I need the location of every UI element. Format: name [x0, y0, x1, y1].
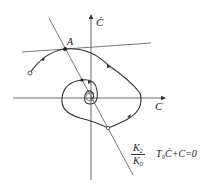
- fraction-denominator: K₀: [131, 156, 145, 166]
- trajectory-curve: [30, 49, 141, 128]
- horizontal-switching-line: [22, 43, 151, 52]
- diagram-canvas: [0, 0, 200, 190]
- point-A-label: A: [67, 37, 73, 47]
- switch-point-top: [80, 78, 83, 81]
- y-axis-label: Ċ: [96, 17, 103, 28]
- gain-ratio-fraction: K₂ K₀: [131, 143, 145, 166]
- switch-point-bottom: [106, 126, 110, 130]
- point-A: [63, 47, 67, 51]
- switching-line-equation: T₀Ċ+C=0: [156, 149, 197, 159]
- start-point: [28, 71, 32, 75]
- phase-plane-diagram: Ċ C A K₂ K₀ T₀Ċ+C=0: [0, 0, 200, 190]
- fraction-numerator: K₂: [131, 143, 145, 153]
- x-axis-label: C: [155, 101, 162, 112]
